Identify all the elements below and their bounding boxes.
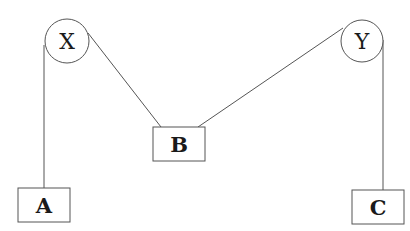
pulley-y-label: Y <box>354 29 370 54</box>
pulley-x: X <box>45 19 89 63</box>
pulley-x-label: X <box>59 29 75 54</box>
string-y-to-b <box>198 28 343 127</box>
string-x-to-b <box>88 33 161 127</box>
pulley-y: Y <box>341 20 383 62</box>
pulley-diagram: X Y A B C <box>0 0 410 231</box>
block-b-label: B <box>170 132 188 157</box>
block-c-label: C <box>370 195 387 220</box>
block-a: A <box>18 188 70 222</box>
block-a-label: A <box>35 193 53 218</box>
block-c: C <box>352 190 404 224</box>
block-b: B <box>153 127 205 161</box>
